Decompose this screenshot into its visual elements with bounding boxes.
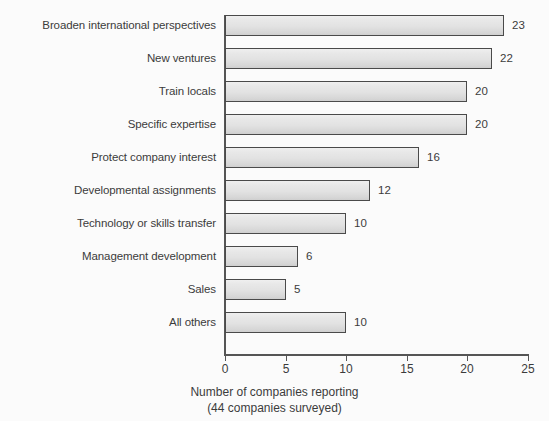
x-tick-mark xyxy=(346,355,347,361)
category-label: Specific expertise xyxy=(0,114,216,135)
category-label: All others xyxy=(0,312,216,333)
bar-row: 12 xyxy=(225,180,370,201)
x-axis-line xyxy=(224,354,529,356)
bar-row: 23 xyxy=(225,15,504,36)
bar-row: 20 xyxy=(225,81,467,102)
x-tick-label: 10 xyxy=(331,362,361,377)
bar-value-label: 10 xyxy=(354,315,367,330)
bar-value-label: 20 xyxy=(475,117,488,132)
x-axis-title-main: Number of companies reporting xyxy=(190,385,358,399)
bar-row: 10 xyxy=(225,312,346,333)
bar-row: 6 xyxy=(225,246,298,267)
category-label: New ventures xyxy=(0,48,216,69)
bar xyxy=(225,213,346,234)
x-tick-label: 0 xyxy=(210,362,240,377)
bar xyxy=(225,246,298,267)
bar-value-label: 23 xyxy=(512,18,525,33)
bar-row: 22 xyxy=(225,48,492,69)
bar-value-label: 22 xyxy=(500,51,513,66)
x-tick-mark xyxy=(467,355,468,361)
bar xyxy=(225,147,419,168)
category-label-column: Broaden international perspectives New v… xyxy=(0,15,216,355)
x-tick-mark xyxy=(407,355,408,361)
bar-row: 20 xyxy=(225,114,467,135)
x-tick-label: 5 xyxy=(271,362,301,377)
bar xyxy=(225,15,504,36)
x-tick-label: 25 xyxy=(513,362,543,377)
bar-row: 10 xyxy=(225,213,346,234)
category-label: Broaden international perspectives xyxy=(0,15,216,36)
x-tick-mark xyxy=(225,355,226,361)
bar xyxy=(225,279,286,300)
category-label: Protect company interest xyxy=(0,147,216,168)
bar-value-label: 5 xyxy=(294,282,300,297)
plot-area: 23 22 20 20 16 12 10 xyxy=(225,15,528,355)
category-label: Train locals xyxy=(0,81,216,102)
bar-value-label: 12 xyxy=(378,183,391,198)
x-axis-title: Number of companies reporting (44 compan… xyxy=(0,384,549,416)
bar-row: 16 xyxy=(225,147,419,168)
bar xyxy=(225,81,467,102)
category-label: Management development xyxy=(0,246,216,267)
bar-value-label: 20 xyxy=(475,84,488,99)
bar-value-label: 16 xyxy=(427,150,440,165)
x-tick-label: 15 xyxy=(392,362,422,377)
x-tick-mark xyxy=(528,355,529,361)
category-label: Technology or skills transfer xyxy=(0,213,216,234)
bar-value-label: 10 xyxy=(354,216,367,231)
bar xyxy=(225,180,370,201)
bar xyxy=(225,312,346,333)
bar-chart: Broaden international perspectives New v… xyxy=(0,0,549,421)
bar xyxy=(225,114,467,135)
x-tick-mark xyxy=(286,355,287,361)
bar xyxy=(225,48,492,69)
category-label: Sales xyxy=(0,279,216,300)
x-axis-title-sub: (44 companies surveyed) xyxy=(0,400,549,416)
x-tick-label: 20 xyxy=(452,362,482,377)
bar-row: 5 xyxy=(225,279,286,300)
bar-value-label: 6 xyxy=(306,249,312,264)
category-label: Developmental assignments xyxy=(0,180,216,201)
